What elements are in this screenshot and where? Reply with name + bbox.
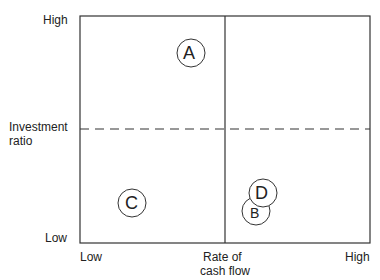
y-axis-low-label: Low [45,231,67,245]
x-axis-title-line2: cash flow [200,264,250,278]
point-c-label: C [125,194,138,212]
y-axis-title-line2: ratio [9,134,32,148]
x-axis-low-label: Low [80,250,102,264]
point-a-label: A [183,44,195,62]
x-axis-title-line1: Rate of [203,250,242,264]
point-b-label: B [250,206,259,220]
point-d-label: D [255,184,268,202]
x-axis-high-label: High [345,250,370,264]
y-axis-title-line1: Investment [9,120,68,134]
y-axis-high-label: High [43,13,68,27]
